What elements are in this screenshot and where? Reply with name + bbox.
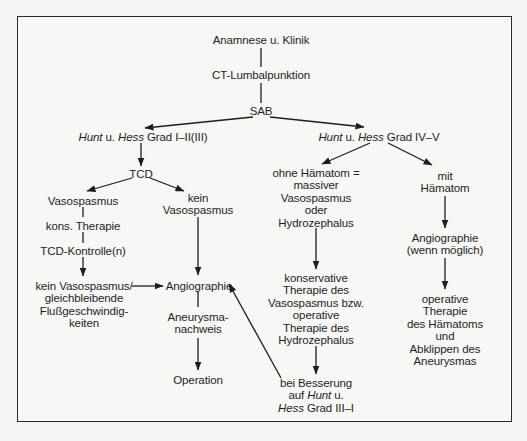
edge-sab-hhhigh: [270, 117, 364, 127]
node-ohne-haematom: ohne Hämatom = massiver Vasospasmus oder…: [272, 167, 359, 229]
node-hunt-hess-high: Hunt u. Hess Grad IV–V: [318, 131, 439, 143]
node-hunt-hess-low: Hunt u. Hess Grad I–II(III): [79, 131, 208, 143]
node-mit-haematom: mit Hämatom: [420, 170, 469, 195]
hess-label: Hess: [358, 131, 384, 143]
node-bei-besserung: bei Besserung auf Hunt u. Hess Grad III–…: [278, 377, 354, 414]
node-kons-therapie: kons. Therapie: [46, 220, 120, 232]
edge-tcd-keinvaso: [150, 178, 184, 191]
edge-sab-hhlow: [145, 117, 253, 128]
node-kein-vasospasmus: kein Vasospasmus: [163, 192, 233, 217]
node-sab: SAB: [250, 105, 273, 117]
node-angiographie: Angiographie: [166, 280, 233, 292]
hess-label: Hess: [278, 402, 304, 414]
hunt-label: Hunt: [318, 131, 342, 143]
node-operative-therapie-haematom: operative Therapie des Hämatoms und Abkl…: [404, 293, 486, 367]
node-tcd: TCD: [129, 168, 152, 180]
node-konservative-therapie: konservative Therapie des Vasospasmus bz…: [268, 272, 364, 346]
grad-label: Grad I–II(III): [144, 131, 208, 143]
hunt-label: Hunt: [79, 131, 103, 143]
node-tcd-kontrolle: TCD-Kontrolle(n): [40, 245, 125, 257]
besserung-line3b: Grad III–I: [304, 402, 354, 414]
node-vasospasmus: Vasospasmus: [48, 195, 118, 207]
node-angiographie-moeglich: Angiographie (wenn möglich): [407, 232, 484, 257]
edge-hhhigh-ohne: [322, 143, 370, 164]
und-label: u.: [342, 131, 358, 143]
besserung-line1: bei Besserung: [280, 377, 352, 389]
besserung-line2c: u.: [331, 389, 344, 401]
node-operation: Operation: [173, 374, 223, 386]
besserung-line2a: auf: [288, 389, 307, 401]
node-aneurysma-nachweis: Aneurysma- nachweis: [168, 311, 229, 336]
node-ct-lumbalpunktion: CT-Lumbalpunktion: [212, 69, 310, 81]
hunt-label: Hunt: [307, 389, 331, 401]
hess-label: Hess: [118, 131, 144, 143]
edge-hhhigh-mit: [388, 143, 432, 165]
grad-label: Grad IV–V: [384, 131, 440, 143]
und-label: u.: [102, 131, 118, 143]
node-anamnese: Anamnese u. Klinik: [213, 34, 310, 46]
node-kein-vaso-gleichbleibend: kein Vasospasmus/ gleichbleibende Flußge…: [35, 280, 132, 330]
edge-tcd-vaso: [87, 178, 132, 191]
